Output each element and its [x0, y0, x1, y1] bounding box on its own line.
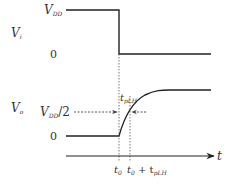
- t0-plus-tplh-label: t0 + tpLH: [127, 164, 167, 177]
- tplh-label: tpLH: [120, 92, 138, 105]
- vdd-half-label: VDD/2: [40, 105, 70, 119]
- output-waveform: [66, 90, 211, 136]
- vi-label: Vi: [11, 26, 22, 40]
- input-waveform: [66, 10, 211, 54]
- timing-diagram: VDD Vi 0 Vo VDD/2 0 tpLH t t0 t0 + tpLH: [0, 0, 230, 185]
- vi-zero-label: 0: [50, 48, 57, 61]
- vo-label: Vo: [11, 101, 24, 115]
- vdd-label: VDD: [44, 3, 62, 17]
- t0-label: t0: [114, 164, 122, 176]
- vo-zero-label: 0: [50, 130, 57, 143]
- time-axis-label: t: [217, 149, 222, 163]
